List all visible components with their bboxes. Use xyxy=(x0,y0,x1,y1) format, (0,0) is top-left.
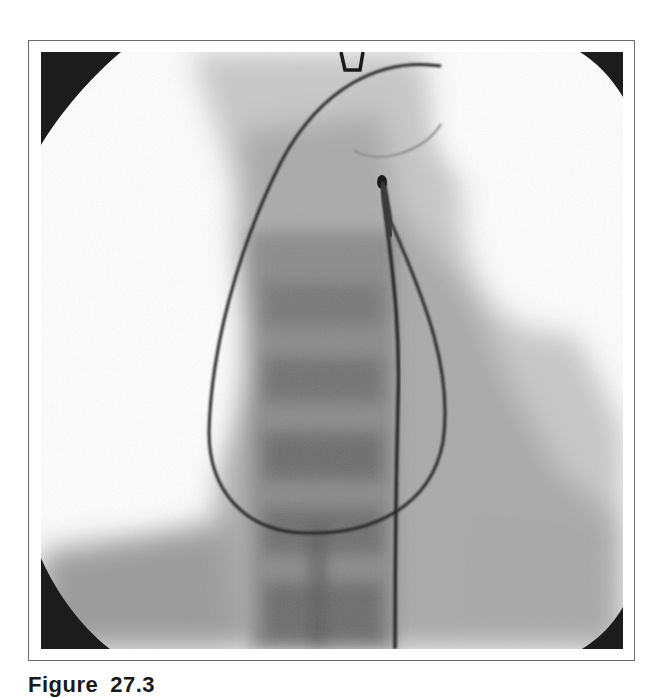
caption-number: 27.3 xyxy=(110,672,155,697)
caption-label: Figure xyxy=(28,672,98,697)
figure-caption: Figure27.3 xyxy=(28,672,155,698)
fluoroscopy-image xyxy=(41,52,623,649)
